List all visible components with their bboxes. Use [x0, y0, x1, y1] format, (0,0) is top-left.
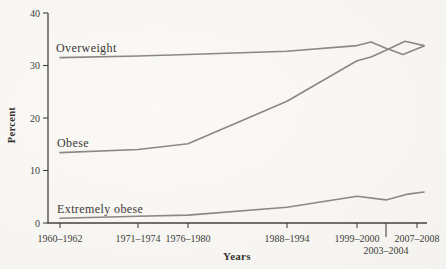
- x-tick-label: 1988–1994: [265, 233, 310, 244]
- obese-series-label: Obese: [57, 137, 89, 149]
- x-axis-title: Years: [223, 250, 251, 262]
- x-tick-label: 1976–1980: [166, 233, 211, 244]
- x-tick-label: 1971–1974: [116, 233, 161, 244]
- overweight-series-label: Overweight: [56, 42, 117, 54]
- x-tick-label: 1960–1962: [38, 233, 83, 244]
- y-tick-label: 20: [30, 113, 40, 124]
- obese-line: [60, 41, 424, 152]
- y-tick-label: 30: [30, 60, 40, 71]
- y-tick-label: 40: [30, 8, 40, 19]
- obesity-trends-figure: 4030201001960–19621971–19741976–19801988…: [0, 0, 446, 269]
- y-axis-title: Percent: [6, 107, 17, 143]
- x-tick-label: 2007–2008: [395, 233, 440, 244]
- x-tick-label: 1999–2000: [335, 233, 380, 244]
- y-tick-label: 10: [30, 165, 40, 176]
- y-tick-label: 0: [35, 218, 40, 229]
- x-tick-label: 2003–2004: [364, 245, 409, 256]
- extremely-obese-series-label: Extremely obese: [57, 203, 143, 215]
